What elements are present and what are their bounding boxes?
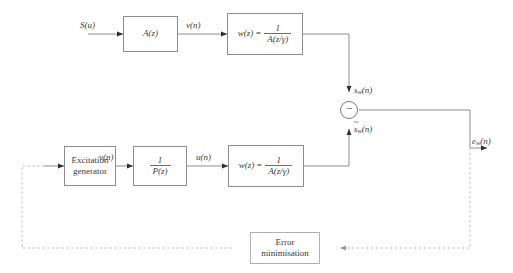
label-sw: sw(n) [354, 85, 372, 95]
weighting-top-eq: = [255, 28, 261, 39]
analysis-filter-label: A(z) [143, 28, 158, 39]
weighting-bottom-numerator: 1 [274, 156, 285, 165]
input-speech-text: S(u) [80, 20, 95, 30]
sw-hat-accent: ~ [354, 119, 358, 127]
block-diagram: A(z) w(z) = 1 A(z/γ) Excitation generato… [0, 0, 513, 273]
sw-hat-accent-wrap: ~s [354, 124, 358, 134]
label-ew: ew(n) [472, 136, 491, 146]
summing-junction-sign: − [345, 103, 353, 114]
weighting-bottom-fraction: 1 A(z/γ) [265, 156, 292, 177]
label-v-top: v(n) [186, 20, 201, 30]
sw-arg: (n) [362, 85, 373, 95]
label-input-speech: S(u) [80, 20, 95, 30]
weighting-bottom-denominator: A(z/γ) [265, 165, 292, 176]
weighting-bottom-expression: w(z) = 1 A(z/γ) [239, 156, 294, 177]
weighting-top-lhs: w(z) [238, 28, 254, 39]
weighting-bottom-eq: = [256, 160, 262, 171]
block-pitch-filter[interactable]: 1 P(z) [133, 146, 187, 186]
sw-hat-arg: (n) [362, 124, 373, 134]
pitch-filter-denominator: P(z) [150, 165, 171, 176]
error-minimisation-line2: minimisation [261, 248, 309, 259]
wire-error-min-to-excitation [22, 166, 232, 248]
error-minimisation-line1: Error [276, 237, 295, 248]
v-top-arg: (n) [190, 20, 201, 30]
pitch-filter-fraction: 1 P(z) [150, 156, 171, 177]
wire-output-to-error-min [340, 148, 470, 248]
weighting-top-denominator: A(z/γ) [264, 33, 291, 44]
excitation-generator-line2: generator [73, 166, 107, 177]
weighting-bottom-lhs: w(z) [239, 160, 255, 171]
block-weighting-filter-bottom[interactable]: w(z) = 1 A(z/γ) [228, 145, 304, 187]
label-sw-hat: ~sw(n) [354, 124, 372, 134]
wire-weighting-bottom-to-sum [304, 129, 349, 166]
block-analysis-filter[interactable]: A(z) [123, 16, 178, 52]
u-signal-arg: (n) [201, 152, 212, 162]
wire-weighting-top-to-sum [303, 34, 349, 92]
block-error-minimisation[interactable]: Error minimisation [250, 232, 320, 264]
wire-sum-to-output [359, 110, 470, 148]
weighting-top-expression: w(z) = 1 A(z/γ) [238, 24, 293, 45]
pitch-filter-numerator: 1 [155, 156, 166, 165]
v-bottom-arg: (n) [103, 152, 114, 162]
weighting-top-numerator: 1 [273, 24, 284, 33]
label-u-signal: u(n) [196, 152, 211, 162]
block-weighting-filter-top[interactable]: w(z) = 1 A(z/γ) [227, 13, 303, 55]
weighting-top-fraction: 1 A(z/γ) [264, 24, 291, 45]
label-v-bottom: v(n) [99, 152, 114, 162]
ew-arg: (n) [480, 136, 491, 146]
